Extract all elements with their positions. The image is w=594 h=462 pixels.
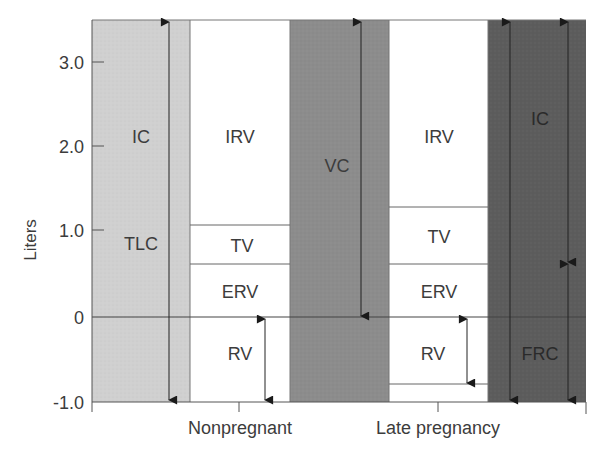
lung-volumes-diagram: 3.0 2.0 1.0 0 -1.0 Liters Nonpregnant La… <box>0 0 594 462</box>
np-tv-label: TV <box>230 236 253 256</box>
right-frc-label: FRC <box>522 344 559 364</box>
np-erv-label: ERV <box>222 282 259 302</box>
tlc-label: TLC <box>124 234 158 254</box>
y-tick-label-neg1: -1.0 <box>53 393 84 413</box>
tlc-ic-label: IC <box>132 127 150 147</box>
y-tick-label-2: 2.0 <box>59 137 84 157</box>
lp-tv-label: TV <box>427 227 450 247</box>
right-ic-label: IC <box>531 109 549 129</box>
y-tick-label-0: 0 <box>74 308 84 328</box>
y-tick-label-3: 3.0 <box>59 53 84 73</box>
np-irv-label: IRV <box>225 127 255 147</box>
lp-rv-label: RV <box>421 344 446 364</box>
lp-erv-label: ERV <box>421 282 458 302</box>
np-rv-label: RV <box>228 344 253 364</box>
vc-label: VC <box>324 156 349 176</box>
x-label-nonpregnant: Nonpregnant <box>188 418 292 438</box>
x-label-late-pregnancy: Late pregnancy <box>376 418 500 438</box>
y-tick-label-1: 1.0 <box>59 221 84 241</box>
y-axis-title: Liters <box>21 219 40 261</box>
lp-irv-label: IRV <box>424 127 454 147</box>
